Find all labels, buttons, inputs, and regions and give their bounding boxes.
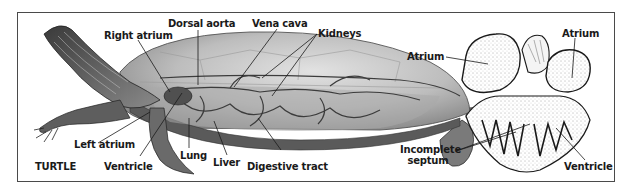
label-atrium-left: Atrium <box>407 51 444 62</box>
label-liver: Liver <box>213 157 240 168</box>
label-vena-cava: Vena cava <box>252 18 307 29</box>
label-kidneys: Kidneys <box>318 28 361 39</box>
label-incomplete-septum-line2: septum <box>400 155 456 166</box>
label-dorsal-aorta: Dorsal aorta <box>168 18 235 29</box>
label-incomplete-septum: Incomplete septum <box>400 144 456 166</box>
turtle-title: TURTLE <box>35 161 76 172</box>
label-right-atrium: Right atrium <box>104 30 173 41</box>
heart-right-atrium <box>546 50 590 92</box>
label-ventricle-turtle: Ventricle <box>104 161 153 172</box>
label-lung: Lung <box>180 150 207 161</box>
heart-conus <box>522 35 549 73</box>
turtle-front-leg <box>40 100 130 133</box>
label-ventricle-heart: Ventricle <box>564 161 613 172</box>
label-digestive-tract: Digestive tract <box>247 161 328 172</box>
label-atrium-right: Atrium <box>562 28 599 39</box>
heart-left-atrium <box>462 34 520 93</box>
label-incomplete-septum-line1: Incomplete <box>400 144 456 155</box>
label-left-atrium: Left atrium <box>74 139 135 150</box>
